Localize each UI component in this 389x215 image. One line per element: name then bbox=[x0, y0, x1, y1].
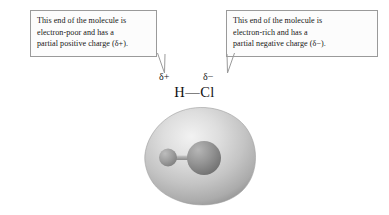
hcl-formula-label: H—Cl bbox=[0, 84, 389, 100]
hydrogen-atom-sphere bbox=[159, 149, 177, 167]
callout-left-line-1: This end of the molecule is bbox=[37, 15, 151, 27]
callout-right-line-2: electron-rich and has a bbox=[233, 27, 372, 39]
hcl-polarity-figure: This end of the molecule is electron-poo… bbox=[0, 0, 389, 215]
chlorine-atom-sphere bbox=[187, 141, 221, 175]
callout-right-line-3: partial negative charge (δ−). bbox=[233, 38, 372, 50]
delta-negative-label: δ− bbox=[203, 72, 213, 82]
callout-left-line-3: partial positive charge (δ+). bbox=[37, 38, 151, 50]
callout-electron-poor: This end of the molecule is electron-poo… bbox=[30, 10, 157, 57]
hcl-space-filling-model bbox=[118, 100, 278, 215]
callout-electron-rich: This end of the molecule is electron-ric… bbox=[226, 10, 378, 57]
delta-positive-label: δ+ bbox=[159, 72, 169, 82]
callout-left-line-2: electron-poor and has a bbox=[37, 27, 151, 39]
callout-right-line-1: This end of the molecule is bbox=[233, 15, 372, 27]
